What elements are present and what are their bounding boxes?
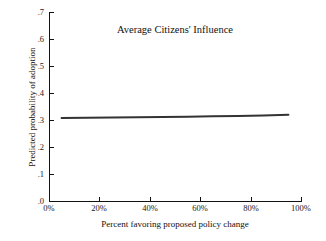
y-tick-mark — [50, 12, 54, 13]
x-tick-label: 40% — [130, 204, 170, 213]
x-tick-label: 100% — [281, 204, 321, 213]
y-tick-mark — [50, 174, 54, 175]
y-tick-mark — [50, 39, 54, 40]
x-tick-mark — [150, 197, 151, 201]
y-tick-mark — [50, 66, 54, 67]
y-tick-mark — [50, 93, 54, 94]
x-axis-title: Percent favoring proposed policy change — [49, 219, 301, 230]
x-tick-label: 80% — [231, 204, 271, 213]
x-tick-label: 60% — [180, 204, 220, 213]
y-tick-mark — [50, 147, 54, 148]
x-tick-mark — [251, 197, 252, 201]
chart-title: Average Citizens' Influence — [49, 24, 301, 36]
chart-figure: .7 .6 .5 .4 .3 .2 .1 .0 0% 20% 40% 60% 8… — [0, 0, 326, 241]
x-tick-label: 20% — [79, 204, 119, 213]
series-line-average-citizens-influence — [62, 115, 289, 118]
x-tick-label: 0% — [29, 204, 69, 213]
y-tick-mark — [50, 120, 54, 121]
x-tick-mark — [200, 197, 201, 201]
x-axis-spine — [49, 201, 302, 202]
x-tick-mark — [49, 197, 50, 201]
x-tick-mark — [99, 197, 100, 201]
y-axis-title: Predicted probability of adoption — [27, 12, 37, 202]
y-tick-mark — [50, 201, 54, 202]
x-tick-mark — [301, 197, 302, 201]
